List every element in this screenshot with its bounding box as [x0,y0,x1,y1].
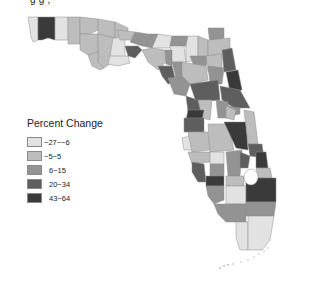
county-glades [226,176,244,186]
florida-keys [219,247,269,269]
legend-swatch [27,137,42,147]
county-dade [248,216,274,250]
legend-title: Percent Change [27,117,103,129]
county-charlotte [206,176,224,186]
county-hillsborough [188,132,210,152]
county-sarasota [192,162,206,182]
legend-label: 6−15 [49,166,66,175]
county-hamilton [170,36,188,46]
lake-okeechobee [244,169,258,185]
legend-swatch [27,193,42,203]
county-hendry [226,186,246,204]
legend-item: 6−15 [27,163,103,177]
county-suwannee [170,46,186,62]
county-manatee [188,152,210,164]
county-hardee [210,152,224,164]
legend-item: −5−5 [27,149,103,163]
county-okeechobee [240,152,250,168]
legend-item: 20−34 [27,177,103,191]
county-lafayette [165,50,172,66]
county-santa-rosa [55,17,68,40]
county-escambia-area [28,17,38,42]
county-pasco [184,118,204,132]
legend: Percent Change −27−−6 −5−5 6−15 20−34 43… [27,117,103,205]
legend-label: −5−5 [44,152,61,161]
legend-swatch [27,165,42,175]
county-broward [246,202,276,216]
county-walton [80,17,98,34]
legend-item: 43−64 [27,191,103,205]
legend-label: 43−64 [49,194,70,203]
county-bay [80,34,98,55]
county-baker [198,36,208,58]
county-monroe-mainland [236,222,248,250]
legend-label: −27−−6 [44,138,70,147]
legend-swatch [27,151,42,161]
county-lee [206,186,224,204]
county-martin [256,168,272,178]
county-escambia [38,17,55,40]
county-liberty [110,38,125,58]
legend-label: 20−34 [49,180,70,189]
legend-swatch [27,179,42,189]
county-okaloosa [68,17,80,44]
county-franklin [108,56,130,66]
legend-item: −27−−6 [27,135,103,149]
county-st-lucie [256,152,268,168]
county-highlands [226,150,242,176]
county-desoto [210,164,224,176]
county-collier [214,204,246,222]
